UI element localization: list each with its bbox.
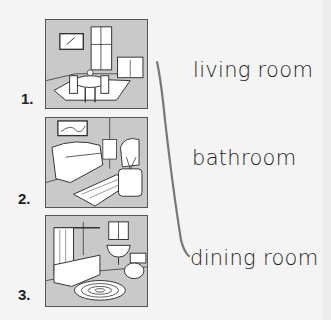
- picture-number-2: 2.: [18, 190, 31, 207]
- picture-number-3: 3.: [18, 286, 31, 303]
- living-room-illustration: [46, 118, 147, 207]
- picture-3-bathroom: [45, 215, 148, 307]
- page-edge: [322, 0, 331, 320]
- picture-1-dining-room: [45, 19, 148, 109]
- drawn-match-line[interactable]: [157, 62, 189, 256]
- word-dining-room[interactable]: dining room: [190, 246, 319, 270]
- picture-number-1: 1.: [21, 90, 34, 107]
- dining-room-illustration: [46, 20, 147, 108]
- word-living-room[interactable]: living room: [193, 58, 313, 82]
- bathroom-illustration: [46, 216, 147, 306]
- word-bathroom[interactable]: bathroom: [192, 146, 296, 170]
- picture-2-living-room: [45, 117, 148, 208]
